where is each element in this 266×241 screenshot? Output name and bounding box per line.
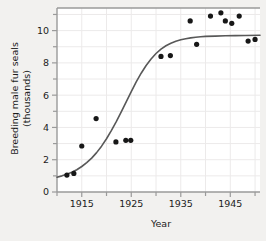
x-tick-label: 1915 — [70, 198, 94, 209]
data-point — [252, 37, 257, 42]
x-tick-label: 1945 — [218, 198, 242, 209]
data-point — [223, 18, 228, 23]
data-point — [64, 172, 69, 177]
y-tick-label: 6 — [43, 90, 49, 101]
data-point — [113, 139, 118, 144]
x-tick-label: 1925 — [119, 198, 143, 209]
data-point — [194, 42, 199, 47]
data-point — [71, 171, 76, 176]
x-tick-label: 1935 — [169, 198, 193, 209]
x-axis-label: Year — [95, 218, 171, 229]
y-tick-label: 2 — [43, 154, 49, 165]
data-point — [168, 53, 173, 58]
chart-figure: Breeding male fur seals (thousands) 1915… — [0, 0, 266, 241]
y-tick-label: 4 — [43, 122, 49, 133]
x-axis-label-wrap: Year — [0, 218, 266, 229]
data-point — [188, 18, 193, 23]
data-point — [94, 116, 99, 121]
data-point — [237, 13, 242, 18]
y-tick-label: 10 — [37, 25, 49, 36]
data-point — [208, 13, 213, 18]
plot-area: 19151925193519450246810 — [0, 0, 266, 241]
data-point — [79, 143, 84, 148]
data-point — [158, 54, 163, 59]
data-point — [123, 138, 128, 143]
data-point — [246, 38, 251, 43]
data-point — [128, 138, 133, 143]
data-point — [218, 10, 223, 15]
data-point — [229, 21, 234, 26]
y-tick-label: 8 — [43, 57, 49, 68]
y-tick-label: 0 — [43, 186, 49, 197]
